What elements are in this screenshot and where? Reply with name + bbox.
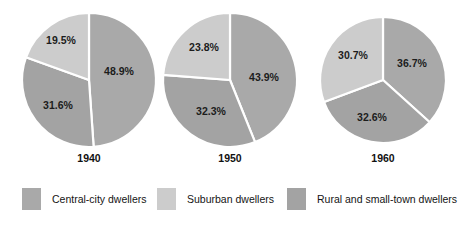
pie-year-label-1960: 1960: [371, 152, 394, 164]
legend-item-central-city: Central-city dwellers: [22, 186, 147, 212]
slice-value-label-suburban-1960: 30.7%: [338, 49, 368, 61]
slice-value-label-central-city-1940: 48.9%: [104, 65, 134, 77]
pie-year-label-1950: 1950: [218, 152, 241, 164]
slice-value-label-central-city-1960: 36.7%: [397, 57, 427, 69]
legend-swatch-suburban: [157, 188, 176, 210]
slice-value-label-central-city-1950: 43.9%: [249, 71, 279, 83]
legend-label-central-city: Central-city dwellers: [52, 194, 147, 205]
legend-swatch-central-city: [22, 188, 41, 210]
legend-item-suburban: Suburban dwellers: [157, 186, 274, 212]
pie-chart-1960: 36.7%32.6%30.7%: [314, 11, 452, 149]
slice-value-label-suburban-1950: 23.8%: [189, 41, 219, 53]
slice-value-label-rural-small-town-1940: 31.6%: [43, 99, 73, 111]
slice-value-label-suburban-1940: 19.5%: [46, 34, 76, 46]
slice-value-label-rural-small-town-1960: 32.6%: [357, 111, 387, 123]
pie-svg-1940: 48.9%31.6%19.5%: [16, 7, 162, 153]
pie-chart-1950: 43.9%32.3%23.8%: [157, 7, 303, 153]
legend-label-suburban: Suburban dwellers: [187, 194, 274, 205]
legend-swatch-rural-small-town: [287, 188, 306, 210]
pie-year-label-1940: 1940: [77, 152, 100, 164]
slice-value-label-rural-small-town-1950: 32.3%: [196, 105, 226, 117]
pie-chart-1940: 48.9%31.6%19.5%: [16, 7, 162, 153]
pie-chart-figure: 48.9%31.6%19.5%194043.9%32.3%23.8%195036…: [0, 0, 467, 225]
legend-item-rural-small-town: Rural and small-town dwellers: [287, 186, 457, 212]
pie-svg-1950: 43.9%32.3%23.8%: [157, 7, 303, 153]
pie-svg-1960: 36.7%32.6%30.7%: [314, 11, 452, 149]
legend-label-rural-small-town: Rural and small-town dwellers: [317, 194, 457, 205]
chart-legend: Central-city dwellersSuburban dwellersRu…: [0, 186, 467, 216]
pie-slice-central-city-1940: [89, 13, 156, 147]
